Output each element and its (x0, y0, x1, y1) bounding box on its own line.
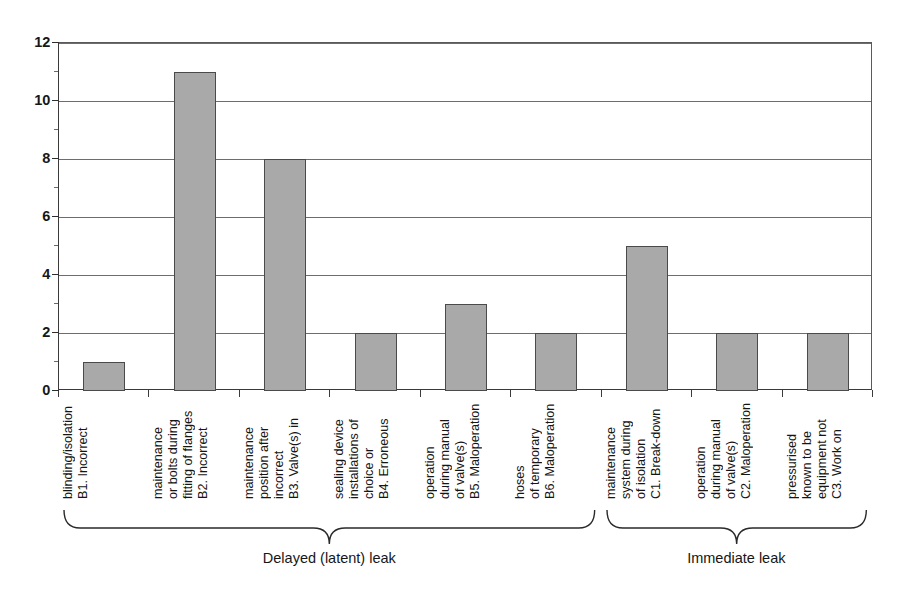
x-category-label-line: C1. Break-down (649, 399, 664, 499)
x-category-label: B1. Incorrectblinding/isolation (61, 399, 151, 417)
y-tick-mark (52, 390, 59, 391)
group-label: Delayed (latent) leak (64, 550, 595, 566)
x-category-label-line: of valve(s) (453, 399, 468, 499)
x-category-label-line: C3. Work on (830, 399, 845, 499)
x-category-label-line: incorrect (272, 399, 287, 499)
x-category-label-line: system during (619, 399, 634, 499)
y-tick-label: 12 (10, 34, 50, 50)
x-category-label-line: equipment not (815, 399, 830, 499)
x-category-label-line: known to be (800, 399, 815, 499)
bar (716, 333, 758, 391)
group-brace (64, 508, 595, 546)
x-category-label: C1. Break-downof isolationsystem duringm… (604, 399, 694, 417)
x-category-label-line: B4. Erroneous (377, 399, 392, 499)
x-tick-mark (239, 390, 240, 397)
x-tick-mark (691, 390, 692, 397)
x-category-label: B5. Maloperationof valve(s)during manual… (423, 399, 513, 417)
bar (626, 246, 668, 391)
x-tick-mark (148, 390, 149, 397)
x-category-label: B3. Valve(s) inincorrectposition afterma… (242, 399, 332, 417)
x-category-label-line: B2. Incorrect (196, 399, 211, 499)
x-tick-mark (782, 390, 783, 397)
x-category-label-line: of valve(s) (724, 399, 739, 499)
gridline (59, 43, 871, 44)
x-category-label: B4. Erroneouschoice orinstallations ofse… (332, 399, 422, 417)
bar (807, 333, 849, 391)
x-category-label-line: sealing device (332, 399, 347, 499)
x-category-label-line: maintenance (604, 399, 619, 499)
x-category-label-line: hoses (513, 399, 528, 499)
x-category-label-line: fitting of flanges (181, 399, 196, 499)
y-tick-label: 4 (10, 266, 50, 282)
x-category-label-line: operation (694, 399, 709, 499)
x-tick-mark (872, 390, 873, 397)
x-category-label-line: pressurised (785, 399, 800, 499)
x-category-label: C3. Work onequipment notknown to bepress… (785, 399, 875, 417)
x-category-label-line: B5. Maloperation (468, 399, 483, 499)
group-label: Immediate leak (607, 550, 866, 566)
x-tick-mark (58, 390, 59, 397)
x-category-label-line: position after (257, 399, 272, 499)
x-category-label-line: maintenance (151, 399, 166, 499)
x-category-label-line: maintenance (242, 399, 257, 499)
x-category-label-line: blinding/isolation (61, 399, 76, 499)
y-tick-label: 8 (10, 150, 50, 166)
y-tick-mark (52, 100, 59, 101)
bar (174, 72, 216, 391)
x-tick-mark (420, 390, 421, 397)
bar (535, 333, 577, 391)
y-tick-label: 0 (10, 382, 50, 398)
bar (264, 159, 306, 391)
bar (445, 304, 487, 391)
x-category-label: B2. Incorrectfitting of flangesor bolts … (151, 399, 241, 417)
x-category-label-line: operation (423, 399, 438, 499)
x-category-label-line: B1. Incorrect (76, 399, 91, 499)
x-category-label-line: installations of (347, 399, 362, 499)
y-tick-mark (52, 216, 59, 217)
x-tick-mark (329, 390, 330, 397)
bar (83, 362, 125, 391)
bar (355, 333, 397, 391)
y-tick-mark (52, 42, 59, 43)
y-minor-tick (54, 361, 58, 362)
x-category-label-line: during manual (709, 399, 724, 499)
y-tick-mark (52, 332, 59, 333)
x-tick-mark (601, 390, 602, 397)
x-category-label-line: of temporary (528, 399, 543, 499)
x-category-label: B6. Maloperationof temporaryhoses (513, 399, 603, 417)
group-brace (607, 508, 866, 546)
y-minor-tick (54, 303, 58, 304)
y-tick-label: 2 (10, 324, 50, 340)
x-category-label-line: or bolts during (166, 399, 181, 499)
y-minor-tick (54, 187, 58, 188)
y-tick-mark (52, 274, 59, 275)
bar-chart: 024681012 B1. Incorrectblinding/isolatio… (0, 0, 901, 603)
y-axis: 024681012 (0, 0, 50, 603)
x-category-label-line: of isolation (634, 399, 649, 499)
y-tick-label: 6 (10, 208, 50, 224)
x-category-label-line: B6. Maloperation (543, 399, 558, 499)
plot-area (58, 42, 872, 390)
x-category-label-line: choice or (362, 399, 377, 499)
y-tick-label: 10 (10, 92, 50, 108)
x-tick-mark (510, 390, 511, 397)
y-tick-mark (52, 158, 59, 159)
y-minor-tick (54, 71, 58, 72)
x-category-label-line: during manual (438, 399, 453, 499)
x-category-label-line: B3. Valve(s) in (287, 399, 302, 499)
y-minor-tick (54, 245, 58, 246)
x-category-label-line: C2. Maloperation (739, 399, 754, 499)
x-category-label: C2. Maloperationof valve(s)during manual… (694, 399, 784, 417)
y-minor-tick (54, 129, 58, 130)
